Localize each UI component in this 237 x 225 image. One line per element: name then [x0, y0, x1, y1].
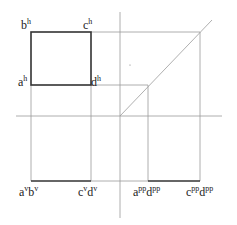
label-dh: dh [91, 74, 101, 89]
label-app-dpp: appdpp [133, 184, 160, 199]
label-ah: ah [18, 74, 27, 89]
label-bh: bh [21, 17, 31, 32]
projection-diagram: bh ch ah dh avbv cvdv appdpp cppdpp [0, 0, 237, 225]
diagonal-45-line [120, 20, 212, 116]
stray-dot [129, 64, 130, 65]
label-cpp-dpp: cppdpp [186, 184, 213, 199]
label-av-bv: avbv [19, 184, 38, 199]
label-cv-dv: cvdv [78, 184, 97, 199]
top-view-square [31, 32, 91, 85]
label-ch: ch [83, 17, 92, 32]
object-lines [31, 32, 200, 181]
